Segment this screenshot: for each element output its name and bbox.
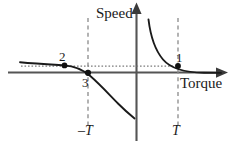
tick-label-negative-t: –T [78,124,93,138]
x-axis-label: Torque [180,76,222,91]
speed-torque-figure: Speed Torque –T T 1 2 3 [0,0,242,148]
figure-canvas [0,0,242,148]
point-1-label: 1 [176,51,183,64]
curve-upper-right-branch [149,20,222,73]
point-3-label: 3 [82,76,89,89]
y-axis-label: Speed [96,6,133,21]
curve-lower-left-branch [20,62,135,118]
tick-label-positive-t: T [172,124,180,138]
point-2-label: 2 [59,50,66,63]
